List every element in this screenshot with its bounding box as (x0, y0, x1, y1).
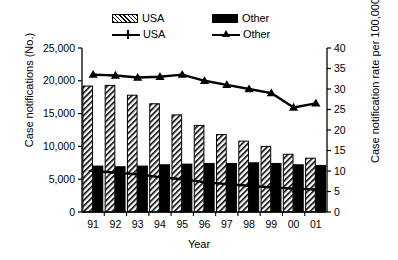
bar-other-96 (205, 163, 215, 212)
bar-other-94 (160, 165, 170, 212)
bar-usa-97 (217, 135, 227, 212)
bar-usa-96 (194, 125, 204, 212)
y-tick-label-right: 40 (334, 42, 346, 54)
x-tick-label-01: 01 (310, 218, 322, 230)
chart-figure: USA Other USA Other Case notificatio (0, 0, 398, 260)
y-tick-label-left: 5,000 (49, 173, 75, 185)
x-tick-label-96: 96 (199, 218, 211, 230)
y-tick-label-right: 30 (334, 83, 346, 95)
plot-area: 05,00010,00015,00020,00025,0000510152025… (0, 0, 398, 260)
x-tick-label-95: 95 (176, 218, 188, 230)
y-tick-label-right: 0 (334, 206, 340, 218)
bar-usa-91 (83, 86, 93, 212)
x-tick-label-92: 92 (110, 218, 122, 230)
x-tick-label-99: 99 (265, 218, 277, 230)
bar-usa-93 (127, 95, 137, 212)
y-tick-label-left: 20,000 (43, 74, 75, 86)
y-tick-label-right: 20 (334, 124, 346, 136)
bar-usa-92 (105, 85, 115, 212)
y-tick-label-right: 35 (334, 62, 346, 74)
y-tick-label-right: 25 (334, 103, 346, 115)
bar-other-97 (227, 163, 237, 212)
x-tick-label-91: 91 (87, 218, 99, 230)
bar-usa-99 (261, 146, 271, 212)
marker-other-01 (311, 99, 320, 107)
x-tick-label-98: 98 (243, 218, 255, 230)
x-tick-label-00: 00 (288, 218, 300, 230)
y-tick-label-right: 15 (334, 144, 346, 156)
bar-other-93 (138, 166, 148, 212)
y-tick-label-left: 10,000 (43, 140, 75, 152)
y-tick-label-left: 0 (69, 206, 75, 218)
bar-other-95 (182, 164, 192, 212)
x-tick-label-97: 97 (221, 218, 233, 230)
bar-usa-00 (283, 154, 293, 212)
y-tick-label-left: 15,000 (43, 107, 75, 119)
y-tick-label-right: 10 (334, 165, 346, 177)
bar-usa-01 (306, 158, 316, 212)
bar-usa-94 (150, 104, 160, 212)
y-tick-label-left: 25,000 (43, 42, 75, 54)
x-tick-label-94: 94 (154, 218, 166, 230)
bar-other-91 (93, 166, 103, 212)
x-tick-label-93: 93 (132, 218, 144, 230)
bar-usa-95 (172, 115, 182, 212)
bar-usa-98 (239, 141, 249, 212)
y-tick-label-right: 5 (334, 185, 340, 197)
